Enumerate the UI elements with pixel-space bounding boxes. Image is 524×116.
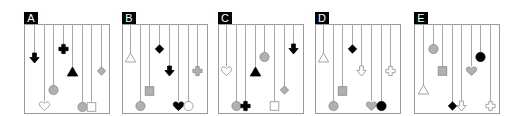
gray-circle-icon	[136, 101, 145, 110]
gray-circle-icon	[329, 101, 338, 110]
panel-e: E	[414, 12, 500, 114]
black-circle-icon	[377, 101, 386, 110]
gray-circle-icon	[49, 85, 58, 94]
mobile-diagrams-canvas: ABCDE	[0, 0, 524, 116]
panel-label: A	[24, 12, 38, 24]
outline-square-icon	[87, 103, 96, 112]
gray-square-icon	[438, 67, 447, 76]
svg-text:A: A	[27, 12, 35, 24]
gray-circle-icon	[260, 52, 269, 61]
gray-circle-icon	[232, 101, 241, 110]
gray-circle-icon	[429, 44, 438, 53]
svg-text:B: B	[125, 12, 132, 24]
panel-label: E	[414, 12, 428, 24]
panel-b: B	[122, 12, 208, 114]
svg-text:D: D	[318, 12, 326, 24]
panel-d: D	[315, 12, 401, 114]
figure: ABCDE	[0, 0, 524, 116]
svg-text:E: E	[417, 12, 424, 24]
panel-frame	[415, 25, 500, 114]
panel-a: A	[24, 12, 110, 114]
panel-c: C	[218, 12, 304, 114]
gray-square-icon	[338, 87, 347, 96]
outline-circle-icon	[184, 101, 193, 110]
panel-label: B	[122, 12, 136, 24]
outline-square-icon	[270, 102, 279, 111]
panel-label: C	[218, 12, 232, 24]
panel-label: D	[315, 12, 329, 24]
black-circle-icon	[476, 52, 485, 61]
gray-circle-icon	[78, 102, 87, 111]
gray-square-icon	[145, 87, 154, 96]
panel-frame	[25, 25, 110, 114]
svg-text:C: C	[221, 12, 229, 24]
